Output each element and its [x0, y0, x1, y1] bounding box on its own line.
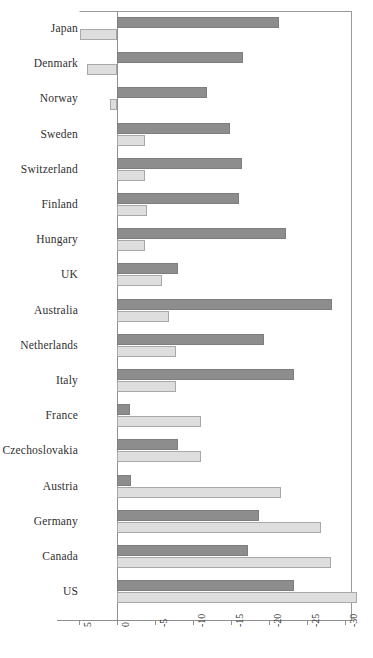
bar-series-light — [117, 135, 145, 146]
bar-series-light — [117, 522, 321, 533]
bar-series-light — [117, 346, 176, 357]
x-tick-label: -15 — [235, 614, 245, 627]
bar-series-dark — [117, 123, 230, 134]
x-tick-label: -5 — [159, 619, 169, 627]
category-label: Germany — [0, 515, 78, 528]
category-label: Denmark — [0, 57, 78, 70]
bar-series-light — [117, 416, 201, 427]
bar-row: Hungary — [0, 225, 373, 260]
bar-series-dark — [117, 17, 279, 28]
category-label: Japan — [0, 22, 78, 35]
bar-series-dark — [117, 334, 264, 345]
bar-series-dark — [117, 439, 178, 450]
x-tick-label: -25 — [311, 614, 321, 627]
bar-series-light — [117, 205, 147, 216]
category-label: Italy — [0, 374, 78, 387]
bar-row: Czechoslovakia — [0, 436, 373, 471]
bar-series-dark — [117, 299, 332, 310]
x-tick — [193, 620, 194, 625]
category-label: US — [0, 585, 78, 598]
category-label: Switzerland — [0, 163, 78, 176]
bar-series-dark — [117, 475, 131, 486]
bar-row: Denmark — [0, 49, 373, 84]
bar-series-light — [117, 240, 145, 251]
bar-row: Germany — [0, 507, 373, 542]
bar-row: France — [0, 401, 373, 436]
category-label: France — [0, 409, 78, 422]
x-axis: 50-5-10-15-20-25-30-35 — [0, 620, 373, 658]
bar-series-light — [80, 29, 117, 40]
x-tick — [117, 620, 118, 625]
x-tick — [155, 620, 156, 625]
bar-series-dark — [117, 404, 130, 415]
bar-series-light — [117, 170, 145, 181]
x-tick-label: -30 — [349, 614, 359, 627]
bar-series-dark — [117, 580, 294, 591]
category-label: UK — [0, 268, 78, 281]
bar-series-dark — [117, 52, 243, 63]
x-tick — [345, 620, 346, 625]
bar-series-light — [117, 592, 357, 603]
bar-series-light — [110, 99, 117, 110]
bar-row: Netherlands — [0, 331, 373, 366]
bar-series-light — [117, 311, 169, 322]
category-label: Sweden — [0, 128, 78, 141]
category-label: Australia — [0, 304, 78, 317]
category-label: Finland — [0, 198, 78, 211]
bar-series-dark — [117, 545, 248, 556]
category-label: Hungary — [0, 233, 78, 246]
bar-series-light — [117, 487, 281, 498]
bar-row: Australia — [0, 296, 373, 331]
category-label: Austria — [0, 480, 78, 493]
bar-row: Finland — [0, 190, 373, 225]
bar-row: Canada — [0, 542, 373, 577]
bar-row: Switzerland — [0, 155, 373, 190]
category-label: Norway — [0, 92, 78, 105]
bar-row: Norway — [0, 84, 373, 119]
bar-row: US — [0, 577, 373, 612]
bar-row: Austria — [0, 472, 373, 507]
bar-series-light — [117, 275, 162, 286]
bar-series-dark — [117, 369, 294, 380]
x-tick — [231, 620, 232, 625]
bar-series-dark — [117, 193, 239, 204]
bar-series-dark — [117, 87, 207, 98]
category-label: Netherlands — [0, 339, 78, 352]
bar-series-dark — [117, 510, 259, 521]
bar-row: Japan — [0, 14, 373, 49]
bar-series-light — [117, 451, 201, 462]
bar-row: UK — [0, 260, 373, 295]
bar-row: Italy — [0, 366, 373, 401]
bar-series-dark — [117, 158, 242, 169]
bar-series-dark — [117, 228, 286, 239]
x-tick — [79, 620, 80, 625]
chart-figure: JapanDenmarkNorwaySwedenSwitzerlandFinla… — [0, 0, 373, 658]
x-tick — [307, 620, 308, 625]
category-label: Czechoslovakia — [0, 444, 78, 457]
x-tick — [269, 620, 270, 625]
x-tick-label: -10 — [197, 614, 207, 627]
category-label: Canada — [0, 550, 78, 563]
bar-series-light — [117, 557, 331, 568]
bar-rows-container: JapanDenmarkNorwaySwedenSwitzerlandFinla… — [0, 0, 373, 620]
bar-series-light — [117, 381, 176, 392]
x-tick-label: -20 — [273, 614, 283, 627]
bar-series-dark — [117, 263, 178, 274]
x-tick-label: 0 — [121, 622, 131, 627]
bar-series-light — [87, 64, 117, 75]
x-tick-label: 5 — [83, 622, 93, 627]
bar-row: Sweden — [0, 120, 373, 155]
